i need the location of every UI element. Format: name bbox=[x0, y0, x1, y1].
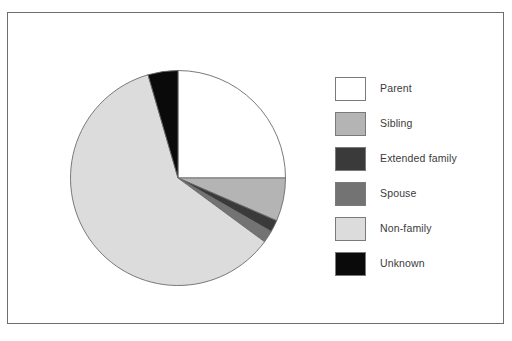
legend-item-parent: Parent bbox=[335, 71, 500, 106]
pie-svg bbox=[67, 67, 289, 289]
legend-item-non-family: Non-family bbox=[335, 211, 500, 246]
chart-legend: Parent Sibling Extended family Spouse No… bbox=[335, 71, 500, 281]
legend-item-spouse: Spouse bbox=[335, 176, 500, 211]
legend-swatch-extended-family bbox=[335, 147, 366, 171]
legend-swatch-sibling bbox=[335, 112, 366, 136]
legend-item-sibling: Sibling bbox=[335, 106, 500, 141]
legend-label-parent: Parent bbox=[380, 83, 412, 94]
pie-chart-figure: Parent Sibling Extended family Spouse No… bbox=[0, 0, 512, 341]
legend-label-unknown: Unknown bbox=[380, 258, 425, 269]
legend-swatch-spouse bbox=[335, 182, 366, 206]
legend-item-unknown: Unknown bbox=[335, 246, 500, 281]
legend-swatch-parent bbox=[335, 77, 366, 101]
pie-chart-plot-area bbox=[67, 67, 289, 289]
figure-frame: Parent Sibling Extended family Spouse No… bbox=[7, 12, 504, 324]
legend-item-extended-family: Extended family bbox=[335, 141, 500, 176]
legend-label-non-family: Non-family bbox=[380, 223, 432, 234]
pie-slice-group bbox=[70, 71, 285, 286]
legend-swatch-non-family bbox=[335, 217, 366, 241]
pie-slice-parent bbox=[178, 71, 286, 179]
legend-label-sibling: Sibling bbox=[380, 118, 413, 129]
legend-label-spouse: Spouse bbox=[380, 188, 417, 199]
legend-label-extended-family: Extended family bbox=[380, 153, 457, 164]
legend-swatch-unknown bbox=[335, 252, 366, 276]
